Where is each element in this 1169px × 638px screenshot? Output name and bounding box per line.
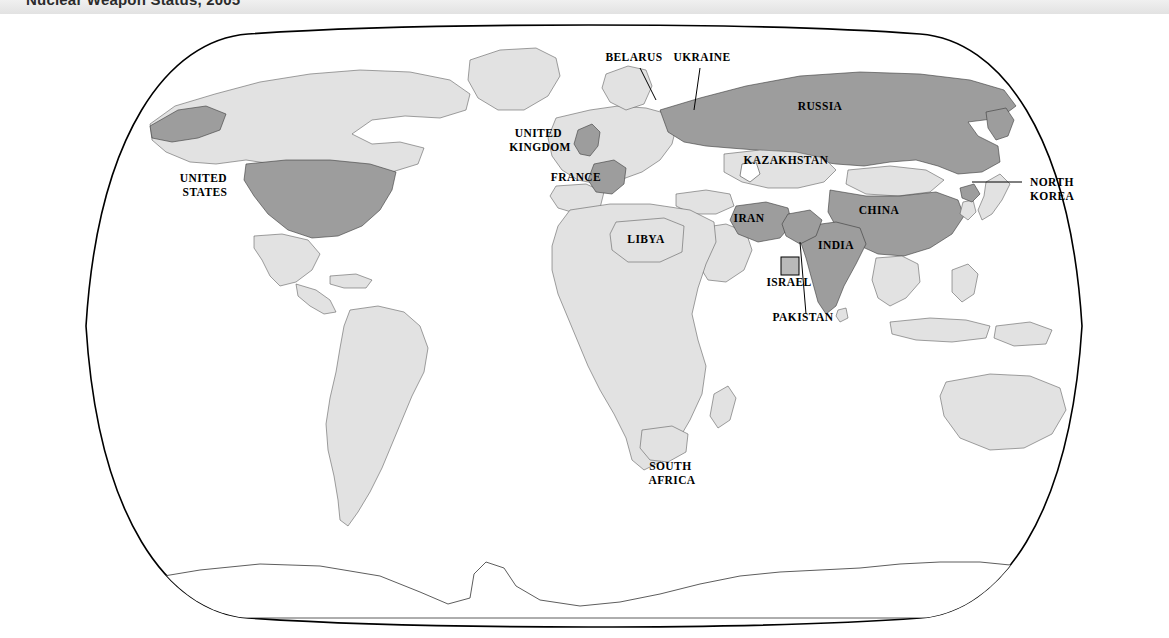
- world-map: UNITED STATES UNITED KINGDOM FRANCE BELA…: [0, 14, 1169, 638]
- map-canvas: UNITED STATES UNITED KINGDOM FRANCE BELA…: [0, 14, 1169, 638]
- map-title-bar: Nuclear Weapon Status, 2005: [0, 0, 1169, 15]
- label-france: FRANCE: [551, 171, 601, 183]
- label-israel: ISRAEL: [766, 276, 811, 288]
- label-ukraine: UKRAINE: [673, 51, 730, 63]
- map-page: Nuclear Weapon Status, 2005: [0, 0, 1169, 638]
- label-belarus: BELARUS: [605, 51, 662, 63]
- page-title: Nuclear Weapon Status, 2005: [26, 0, 240, 8]
- label-china: CHINA: [859, 204, 900, 216]
- label-pakistan: PAKISTAN: [773, 311, 834, 323]
- label-iran: IRAN: [734, 212, 765, 224]
- israel-swatch-icon: [781, 257, 799, 275]
- label-russia: RUSSIA: [798, 100, 843, 112]
- label-libya: LIBYA: [627, 233, 665, 245]
- label-kazakhstan: KAZAKHSTAN: [744, 154, 829, 166]
- country-new-zealand: [1076, 458, 1100, 494]
- label-india: INDIA: [818, 239, 854, 251]
